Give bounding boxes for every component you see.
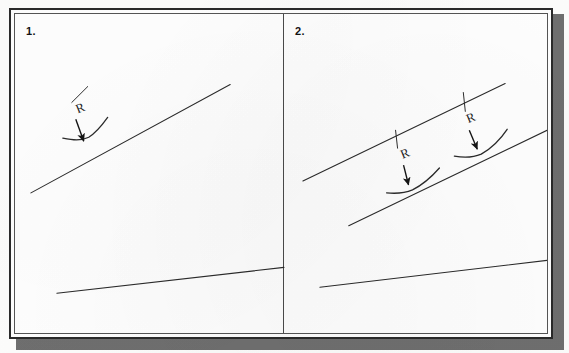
drawing-card: 1. 2. RRR — [9, 8, 553, 339]
radius-arrow-icon — [76, 119, 84, 141]
radius-label: R — [73, 99, 87, 116]
radius-annotation-group: RRR — [72, 87, 478, 185]
scanned-drawing-page: 1. 2. RRR — [0, 0, 569, 353]
radius-label: R — [398, 145, 412, 162]
radius-leader-line — [463, 93, 465, 112]
sketch-fillet-curve-1 — [387, 168, 440, 193]
radius-leader-line — [396, 130, 398, 148]
radius-arrow-icon — [404, 165, 409, 185]
sketch-line-lower-diagonal — [57, 267, 284, 293]
radius-arrow-icon — [469, 130, 477, 149]
sketch-line-lower-diagonal — [320, 259, 547, 287]
sketch-fillet-curve-1 — [63, 117, 108, 140]
sketch-canvas: RRR — [15, 14, 547, 333]
sketch-overlay: RRR — [15, 14, 547, 333]
radius-label: R — [464, 109, 478, 126]
sketch-line-main-diagonal — [31, 85, 230, 193]
drawing-card-inner-rule: 1. 2. RRR — [14, 13, 548, 334]
